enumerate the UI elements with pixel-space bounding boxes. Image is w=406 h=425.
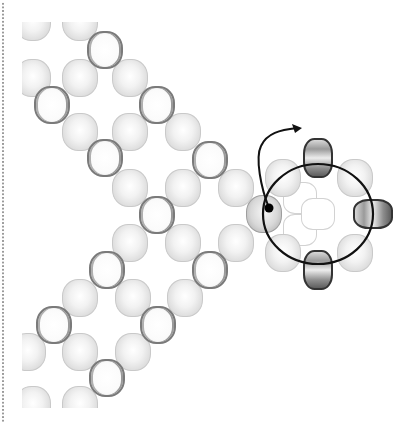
thread-path	[0, 0, 406, 425]
thread-start-dot	[265, 204, 274, 213]
bead-pattern-diagram	[0, 0, 406, 425]
arrowhead-icon	[292, 124, 302, 133]
thread-loop	[263, 164, 373, 264]
thread-arrow	[259, 128, 297, 208]
